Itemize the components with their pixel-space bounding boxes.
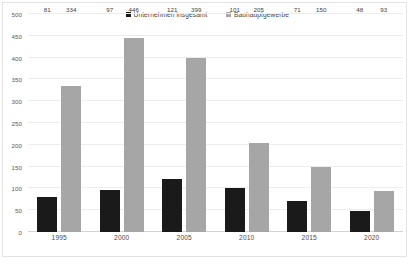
bar-column: 71 <box>287 14 307 232</box>
bar-value-label: 121 <box>167 6 178 13</box>
bar-group: 81334 <box>28 14 91 232</box>
bar-column: 97 <box>100 14 120 232</box>
bar[interactable]: 399 <box>186 58 206 232</box>
bar-column: 446 <box>124 14 144 232</box>
bar[interactable]: 205 <box>249 143 269 232</box>
bar-column: 93 <box>374 14 394 232</box>
bar-group: 101205 <box>216 14 279 232</box>
bar-value-label: 101 <box>229 6 240 13</box>
y-axis-tick-label: 500 <box>11 11 22 18</box>
y-axis-tick-label: 450 <box>11 32 22 39</box>
x-axis-tick-label: 2015 <box>278 234 341 241</box>
bar[interactable]: 101 <box>225 188 245 232</box>
y-axis-tick-label: 350 <box>11 76 22 83</box>
y-axis-tick-label: 50 <box>15 207 22 214</box>
plot-area: 8133497446121399101205711504893 <box>28 14 403 232</box>
bar-value-label: 71 <box>294 6 301 13</box>
x-axis: 199520002005201020152020 <box>28 234 403 241</box>
bar-value-label: 81 <box>44 6 51 13</box>
bar[interactable]: 446 <box>124 38 144 232</box>
x-axis-tick-label: 2010 <box>216 234 279 241</box>
y-axis-tick-label: 300 <box>11 98 22 105</box>
bar[interactable]: 97 <box>100 190 120 232</box>
y-axis-tick-label: 100 <box>11 185 22 192</box>
bar-group: 97446 <box>91 14 154 232</box>
bar[interactable]: 71 <box>287 201 307 232</box>
bar-column: 121 <box>162 14 182 232</box>
bar-column: 399 <box>186 14 206 232</box>
bar[interactable]: 81 <box>37 197 57 232</box>
bar-value-label: 97 <box>106 6 113 13</box>
bar[interactable]: 121 <box>162 179 182 232</box>
bar-column: 101 <box>225 14 245 232</box>
y-axis-tick-label: 150 <box>11 163 22 170</box>
y-axis-tick-label: 250 <box>11 120 22 127</box>
bar-value-label: 93 <box>380 6 387 13</box>
x-axis-tick-label: 2020 <box>341 234 404 241</box>
y-axis: 050100150200250300350400450500 <box>0 14 26 232</box>
bar-value-label: 334 <box>66 6 77 13</box>
bar-group: 121399 <box>153 14 216 232</box>
bar-group: 71150 <box>278 14 341 232</box>
bar[interactable]: 334 <box>61 86 81 232</box>
bar-column: 81 <box>37 14 57 232</box>
y-axis-tick-label: 400 <box>11 54 22 61</box>
bar-groups: 8133497446121399101205711504893 <box>28 14 403 232</box>
bar-column: 334 <box>61 14 81 232</box>
bar-column: 48 <box>350 14 370 232</box>
bar[interactable]: 93 <box>374 191 394 232</box>
x-axis-tick-label: 2005 <box>153 234 216 241</box>
y-axis-tick-label: 200 <box>11 141 22 148</box>
bar-column: 205 <box>249 14 269 232</box>
y-axis-tick-label: 0 <box>18 229 22 236</box>
bar-value-label: 399 <box>191 6 202 13</box>
bar-chart: Unternehmen insgesamt Bauhauptgewerbe 05… <box>0 0 415 264</box>
x-axis-tick-label: 1995 <box>28 234 91 241</box>
bar-value-label: 205 <box>253 6 264 13</box>
bar[interactable]: 48 <box>350 211 370 232</box>
bar[interactable]: 150 <box>311 167 331 232</box>
bar-group: 4893 <box>341 14 404 232</box>
x-axis-tick-label: 2000 <box>91 234 154 241</box>
bar-value-label: 446 <box>128 6 139 13</box>
bar-column: 150 <box>311 14 331 232</box>
bar-value-label: 150 <box>316 6 327 13</box>
bar-value-label: 48 <box>356 6 363 13</box>
